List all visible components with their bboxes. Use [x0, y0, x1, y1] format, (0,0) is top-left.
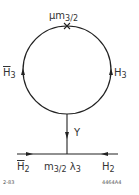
arrow-up-right-icon	[109, 68, 113, 75]
loop-circle	[23, 26, 111, 114]
bottom-left-label: H2	[17, 162, 30, 175]
top-label: μm3/2	[49, 11, 78, 24]
right-loop-label: H3	[114, 68, 127, 81]
figure-id-code: 4464A4	[102, 179, 121, 185]
figure-date-code: 2-83	[3, 179, 14, 185]
bottom-right-label: H2	[102, 162, 115, 175]
arrow-down-icon	[65, 132, 69, 139]
arrow-up-left-icon	[21, 68, 25, 75]
propagator-label: Y	[74, 128, 80, 138]
left-loop-label: H3	[3, 68, 16, 81]
arrow-right-icon	[26, 152, 33, 156]
arrow-left-icon	[101, 152, 108, 156]
bottom-center-label: m3/2 λ3	[44, 162, 81, 175]
